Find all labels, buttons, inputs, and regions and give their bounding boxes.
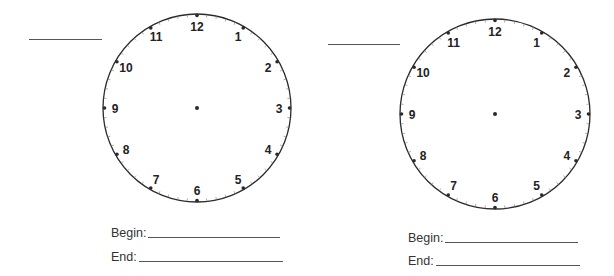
end-label: End: — [111, 250, 137, 264]
minute-tick — [439, 37, 441, 39]
minute-tick — [271, 161, 273, 163]
hour-number: 11 — [447, 36, 460, 50]
minute-tick — [439, 188, 441, 190]
hour-dot — [574, 159, 578, 163]
hour-number: 9 — [112, 102, 119, 116]
hour-number: 9 — [409, 108, 416, 122]
center-dot — [493, 112, 497, 116]
hour-dot — [275, 60, 279, 64]
hour-number: 3 — [276, 102, 283, 116]
hour-dot — [574, 65, 578, 69]
minute-tick — [271, 53, 273, 55]
hour-number: 2 — [265, 61, 272, 75]
hour-dot — [400, 112, 404, 116]
begin-label: Begin: — [111, 226, 146, 240]
hour-number: 1 — [235, 30, 242, 44]
hour-number: 7 — [450, 179, 457, 193]
minute-tick — [557, 182, 559, 184]
hour-number: 1 — [533, 36, 540, 50]
hour-dot — [115, 60, 119, 64]
hour-number: 5 — [235, 173, 242, 187]
end-time-field[interactable]: End: — [111, 250, 283, 264]
name-blank-line[interactable] — [328, 44, 400, 45]
hour-number: 4 — [564, 149, 571, 163]
hour-dot — [195, 199, 199, 203]
hour-number: 3 — [575, 108, 582, 122]
hour-number: 5 — [533, 179, 540, 193]
minute-tick — [563, 50, 565, 52]
end-time-blank[interactable] — [436, 265, 580, 266]
minute-tick — [258, 176, 260, 178]
hour-dot — [493, 19, 497, 23]
minute-tick — [424, 176, 426, 178]
hour-dot — [412, 65, 416, 69]
minute-tick — [127, 45, 129, 47]
minute-tick — [250, 32, 252, 34]
hour-number: 10 — [119, 61, 133, 75]
begin-time-blank[interactable] — [148, 237, 280, 238]
name-blank-line[interactable] — [29, 39, 102, 40]
begin-time-field[interactable]: Begin: — [111, 226, 280, 240]
hour-dot — [195, 14, 199, 18]
minute-tick — [549, 188, 551, 190]
hour-number: 12 — [190, 20, 204, 34]
minute-tick — [569, 168, 571, 170]
minute-tick — [258, 38, 260, 40]
end-label: End: — [408, 254, 434, 268]
minute-tick — [418, 168, 420, 170]
minute-tick — [431, 43, 433, 45]
minute-tick — [265, 45, 267, 47]
hour-dot — [275, 152, 279, 156]
hour-number: 8 — [123, 143, 130, 157]
minute-tick — [121, 161, 123, 163]
hour-number: 2 — [564, 66, 571, 80]
minute-tick — [431, 182, 433, 184]
hour-number: 6 — [492, 191, 499, 205]
minute-tick — [250, 182, 252, 184]
minute-tick — [121, 53, 123, 55]
hour-number: 12 — [488, 25, 502, 39]
hour-number: 4 — [265, 143, 272, 157]
minute-tick — [142, 182, 144, 184]
clock-face: 121234567891011 — [398, 17, 592, 211]
hour-number: 6 — [194, 184, 201, 198]
hour-dot — [540, 31, 544, 35]
hour-dot — [149, 186, 153, 190]
clock-face: 121234567891011 — [101, 12, 293, 204]
begin-time-blank[interactable] — [445, 242, 578, 243]
hour-number: 11 — [150, 30, 163, 44]
minute-tick — [549, 37, 551, 39]
hour-number: 7 — [153, 173, 160, 187]
hour-number: 10 — [416, 66, 430, 80]
hour-dot — [115, 152, 119, 156]
center-dot — [195, 106, 199, 110]
hour-dot — [241, 26, 245, 30]
hour-dot — [493, 206, 497, 210]
minute-tick — [424, 50, 426, 52]
minute-tick — [569, 58, 571, 60]
minute-tick — [418, 58, 420, 60]
minute-tick — [127, 169, 129, 171]
minute-tick — [142, 32, 144, 34]
end-time-blank[interactable] — [139, 261, 283, 262]
begin-time-field[interactable]: Begin: — [408, 231, 578, 245]
hour-dot — [540, 193, 544, 197]
hour-dot — [149, 26, 153, 30]
minute-tick — [134, 38, 136, 40]
hour-dot — [241, 186, 245, 190]
hour-dot — [103, 106, 107, 110]
hour-number: 8 — [420, 149, 427, 163]
minute-tick — [134, 176, 136, 178]
begin-label: Begin: — [408, 231, 443, 245]
hour-dot — [288, 106, 292, 110]
minute-tick — [563, 176, 565, 178]
end-time-field[interactable]: End: — [408, 254, 580, 268]
minute-tick — [265, 169, 267, 171]
vertical-copyright-text — [1, 150, 9, 240]
minute-tick — [557, 43, 559, 45]
hour-dot — [446, 31, 450, 35]
hour-dot — [446, 193, 450, 197]
hour-dot — [587, 112, 591, 116]
hour-dot — [412, 159, 416, 163]
